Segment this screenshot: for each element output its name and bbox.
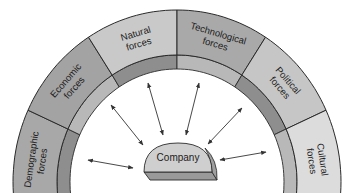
double-arrow-5: [220, 152, 266, 160]
double-arrow-1: [111, 105, 143, 145]
double-arrow-4: [208, 108, 242, 144]
company-dome-base: [144, 172, 217, 180]
marketing-environment-diagram: DemographicforcesEconomicforcesNaturalfo…: [0, 0, 348, 193]
double-arrow-2: [148, 83, 163, 135]
double-arrow-0: [88, 160, 133, 168]
diagram-canvas: DemographicforcesEconomicforcesNaturalfo…: [0, 0, 348, 193]
segment-label-cultural: Culturalforces: [304, 143, 330, 179]
double-arrow-3: [186, 83, 199, 135]
company-label: Company: [157, 152, 200, 163]
company-node: Company: [144, 143, 217, 180]
